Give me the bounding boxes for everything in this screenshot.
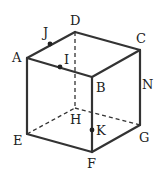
label-C: C [136, 31, 146, 46]
label-F: F [87, 156, 96, 171]
edge-DC [75, 32, 140, 50]
point-J-marker [48, 42, 53, 47]
cube-diagram: A B C D E F G H J I K N [0, 0, 162, 176]
edge-HG [75, 108, 140, 125]
label-K: K [96, 123, 106, 138]
label-J: J [41, 25, 48, 40]
point-K-marker [90, 128, 95, 133]
edge-EH [27, 108, 75, 134]
label-N: N [142, 77, 153, 92]
label-A: A [11, 50, 22, 65]
label-E: E [13, 133, 23, 148]
point-I-marker [58, 65, 63, 70]
label-B: B [96, 80, 106, 95]
label-D: D [70, 13, 80, 28]
label-I: I [64, 52, 69, 67]
edge-EF [27, 134, 92, 152]
label-G: G [139, 130, 149, 145]
label-H: H [70, 112, 81, 127]
edge-BC [92, 50, 140, 77]
